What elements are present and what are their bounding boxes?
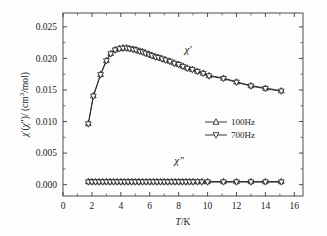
x-tick-label: 8 [176,201,181,211]
x-tick-label: 2 [90,201,95,211]
legend-label: 700Hz [231,130,255,140]
y-tick-label: 0.000 [36,180,58,190]
x-tick-label: 6 [147,201,152,211]
x-tick-label: 16 [290,201,300,211]
y-tick-label: 0.015 [36,85,58,95]
x-tick-label: 10 [203,201,213,211]
x-tick-label: 0 [61,201,66,211]
y-tick-label: 0.025 [36,22,58,32]
chart-canvas: 0246810121416 0.0000.0050.0100.0150.0200… [0,0,327,236]
y-axis-title: χ′(χ″)/ (cm3/mol) [18,72,31,138]
chi-double-prime-annotation: χ″ [173,154,184,166]
x-tick-label: 14 [261,201,271,211]
chi-prime-annotation: χ′ [183,43,192,55]
chart-figure: 0246810121416 0.0000.0050.0100.0150.0200… [0,0,327,236]
x-axis-title: T/K [176,217,191,227]
y-tick-label: 0.020 [36,54,58,64]
x-tick-label: 12 [232,201,242,211]
y-tick-label: 0.010 [36,117,58,127]
y-tick-label: 0.005 [36,148,58,158]
x-tick-label: 4 [118,201,123,211]
legend-label: 100Hz [231,117,255,127]
